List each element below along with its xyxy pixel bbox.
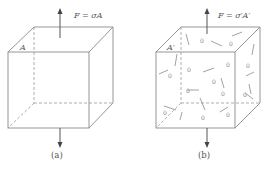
area-label-b: A′	[166, 43, 175, 52]
force-label-b: F = σ′A′	[217, 11, 250, 20]
svg-text:0: 0	[229, 40, 233, 47]
svg-text:0: 0	[221, 90, 225, 97]
svg-text:0: 0	[201, 114, 205, 121]
svg-text:0: 0	[187, 66, 191, 73]
force-arrow-down-a	[58, 128, 63, 148]
svg-text:0: 0	[246, 62, 250, 69]
force-arrow-up-a	[58, 8, 63, 38]
area-label-a: A	[19, 43, 26, 52]
svg-text:0: 0	[200, 37, 204, 44]
svg-text:0: 0	[186, 87, 190, 94]
svg-text:0: 0	[226, 111, 230, 118]
force-arrow-down-b	[205, 128, 210, 148]
svg-text:0: 0	[243, 91, 247, 98]
caption-a: (a)	[51, 150, 63, 160]
force-arrow-up-b	[205, 8, 210, 34]
caption-b: (b)	[198, 150, 210, 160]
svg-text:0: 0	[168, 72, 172, 79]
damage-diagram: F = σA A (a) 0 0 0 0 0 0 0 0	[0, 0, 268, 174]
svg-text:0: 0	[212, 78, 216, 85]
force-label-a: F = σA	[73, 11, 103, 20]
svg-text:0: 0	[163, 109, 167, 116]
svg-text:0: 0	[226, 61, 230, 68]
